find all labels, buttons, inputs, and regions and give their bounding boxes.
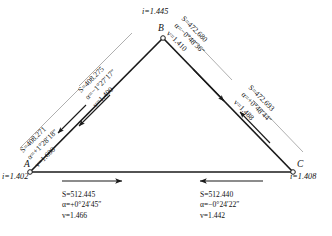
observation-A-to-C: S=512.445 α=+0°24′45″ v=1.466: [62, 190, 101, 221]
station-height-A: i=1.402: [2, 172, 28, 183]
station-marker-A: [28, 170, 33, 175]
diagram-canvas: A i=1.402 B i=1.445 C i=1.408 S=408.271 …: [0, 0, 332, 236]
observation-C-to-A-angle: α=−0°24′22″: [200, 200, 239, 210]
observation-A-to-C-target-height: v=1.466: [62, 211, 101, 221]
observation-A-to-C-distance: S=512.445: [62, 190, 101, 200]
observation-A-to-C-angle: α=+0°24′45″: [62, 200, 101, 210]
station-height-C: i=1.408: [290, 172, 316, 183]
station-label-B: B: [158, 22, 164, 34]
station-height-B: i=1.445: [142, 7, 168, 18]
observation-C-to-A-distance: S=512.440: [200, 190, 239, 200]
arrow-B-to-C: [193, 69, 224, 101]
station-label-C: C: [297, 158, 303, 170]
observation-C-to-A: S=512.440 α=−0°24′22″ v=1.442: [200, 190, 239, 221]
observation-C-to-A-target-height: v=1.442: [200, 211, 239, 221]
